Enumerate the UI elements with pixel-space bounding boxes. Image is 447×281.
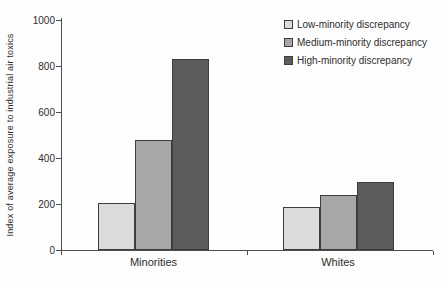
bar-minorities-medium-minority-discrepancy xyxy=(135,140,172,250)
y-axis-line xyxy=(61,18,62,251)
y-tick-mark-600 xyxy=(56,112,61,113)
y-axis-title: Index of average exposure to industrial … xyxy=(5,15,17,255)
y-tick-label-1000: 1000 xyxy=(23,15,55,26)
legend-item-high-minority-discrepancy: High-minority discrepancy xyxy=(284,55,427,66)
legend-item-low-minority-discrepancy: Low-minority discrepancy xyxy=(284,19,427,30)
x-tick-mark-0 xyxy=(61,251,62,255)
exposure-bar-chart: Index of average exposure to industrial … xyxy=(0,0,447,281)
y-tick-label-800: 800 xyxy=(23,61,55,72)
y-tick-label-400: 400 xyxy=(23,153,55,164)
y-tick-label-0: 0 xyxy=(23,245,55,256)
bar-minorities-high-minority-discrepancy xyxy=(172,59,209,250)
x-tick-mark-2 xyxy=(433,251,434,255)
y-tick-mark-800 xyxy=(56,66,61,67)
bar-minorities-low-minority-discrepancy xyxy=(98,203,135,250)
x-tick-mark-1 xyxy=(247,251,248,255)
x-category-label-whites: Whites xyxy=(283,256,393,268)
y-tick-label-600: 600 xyxy=(23,107,55,118)
y-tick-mark-200 xyxy=(56,204,61,205)
legend-swatch-high-minority-discrepancy xyxy=(284,56,293,65)
y-tick-mark-400 xyxy=(56,158,61,159)
chart-legend: Low-minority discrepancyMedium-minority … xyxy=(284,19,427,66)
legend-swatch-medium-minority-discrepancy xyxy=(284,38,293,47)
x-category-label-minorities: Minorities xyxy=(99,256,209,268)
bar-whites-medium-minority-discrepancy xyxy=(320,195,357,250)
y-tick-mark-1000 xyxy=(56,20,61,21)
legend-label-medium-minority-discrepancy: Medium-minority discrepancy xyxy=(297,37,427,48)
legend-label-low-minority-discrepancy: Low-minority discrepancy xyxy=(297,19,410,30)
legend-swatch-low-minority-discrepancy xyxy=(284,20,293,29)
y-tick-label-200: 200 xyxy=(23,199,55,210)
legend-item-medium-minority-discrepancy: Medium-minority discrepancy xyxy=(284,37,427,48)
legend-label-high-minority-discrepancy: High-minority discrepancy xyxy=(297,55,412,66)
bar-whites-high-minority-discrepancy xyxy=(357,182,394,250)
bar-whites-low-minority-discrepancy xyxy=(283,207,320,250)
